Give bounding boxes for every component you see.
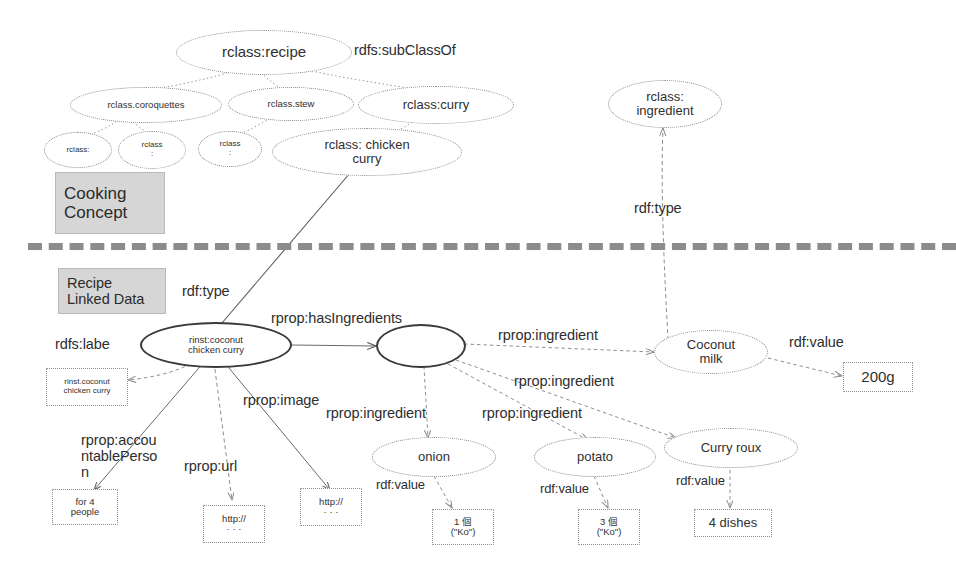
node-blank[interactable] — [376, 324, 466, 368]
edge-label-ingredient-3: rprop:ingredient — [482, 405, 582, 421]
literal-box-onion-value[interactable]: 1 個 ("Ko") — [432, 509, 494, 545]
literal-box-roux-value[interactable]: 4 dishes — [694, 509, 772, 537]
literal-box-url-1[interactable]: http:// · · · — [203, 505, 265, 543]
edge-label-rdfvalue-milk: rdf:value — [789, 334, 844, 350]
edge-label-rdftype-recipe: rdf:type — [182, 283, 230, 299]
section-label-cooking-concept: Cooking Concept — [55, 172, 165, 234]
edge-label-ingredient-1: rprop:ingredient — [498, 327, 598, 343]
node-curry-roux[interactable]: Curry roux — [664, 428, 798, 468]
edge-label-image: rprop:image — [243, 392, 319, 408]
node-coconut-milk[interactable]: Coconut milk — [654, 330, 768, 374]
node-potato[interactable]: potato — [534, 437, 656, 477]
node-rclass-ingredient[interactable]: rclass: ingredient — [608, 80, 722, 128]
edge-label-ingredient-2: rprop:ingredient — [514, 373, 614, 389]
literal-box-label[interactable]: rinst.coconut chicken curry — [46, 368, 128, 406]
node-rclass-sub-3[interactable]: rclass : — [198, 131, 262, 167]
edge-label-subclassof: rdfs:subClassOf — [354, 42, 456, 58]
literal-box-milk-value[interactable]: 200g — [843, 362, 913, 392]
literal-box-people[interactable]: for 4 people — [52, 489, 118, 525]
edge-label-accountableperson: rprop:accou ntablePerso n — [81, 432, 181, 481]
edge-label-ingredient-4: rprop:ingredient — [326, 405, 426, 421]
edge-label-rdftype-ingredient: rdf:type — [634, 200, 682, 216]
node-rclass-sub-2[interactable]: rclass : — [118, 131, 186, 169]
edge-label-hasingredients: rprop:hasIngredients — [271, 310, 402, 326]
edge-label-url: rprop:url — [184, 458, 237, 474]
node-rclass-curry[interactable]: rclass:curry — [358, 86, 514, 124]
edge-label-rdfvalue-potato: rdf:value — [540, 482, 589, 497]
edge-label-rdfvalue-roux: rdf:value — [676, 474, 725, 489]
edge-label-rdfslabel: rdfs:labe — [55, 336, 110, 352]
node-rclass-chicken-curry[interactable]: rclass: chicken curry — [272, 128, 462, 176]
edge-label-rdfvalue-onion: rdf:value — [376, 478, 425, 493]
diagram-canvas: Cooking Concept Recipe Linked Data rclas… — [0, 0, 956, 574]
node-onion[interactable]: onion — [372, 437, 496, 477]
literal-box-url-2[interactable]: http:// · · · — [300, 488, 362, 526]
literal-box-potato-value[interactable]: 3 個 ("Ko") — [578, 509, 640, 545]
section-label-recipe-linked-data: Recipe Linked Data — [58, 268, 166, 314]
section-divider — [28, 243, 956, 250]
node-rclass-recipe[interactable]: rclass:recipe — [176, 30, 352, 75]
node-rclass-stew[interactable]: rclass.stew — [228, 87, 354, 121]
node-rclass-coroquettes[interactable]: rclass.coroquettes — [70, 87, 222, 123]
node-rinst-coconut-chicken-curry[interactable]: rinst:coconut chicken curry — [140, 322, 292, 368]
node-rclass-sub-1[interactable]: rclass: — [44, 132, 112, 168]
